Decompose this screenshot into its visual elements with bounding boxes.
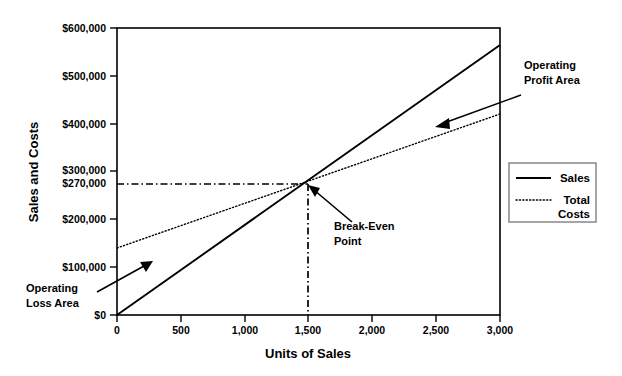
x-tick-label-500: 500 — [172, 324, 190, 336]
x-tick-label-0: 0 — [114, 324, 120, 336]
x-tick-label-1500: 1,500 — [295, 324, 321, 336]
x-tick-label-3000: 3,000 — [487, 324, 513, 336]
y-axis-tick-labels: $600,000 $500,000 $400,000 $300,000 $270… — [62, 22, 106, 321]
y-axis-title: Sales and Costs — [26, 122, 41, 222]
legend-label-total-costs-line2: Costs — [558, 208, 590, 220]
legend-label-sales: Sales — [560, 172, 590, 184]
x-tick-label-2000: 2,000 — [359, 324, 385, 336]
y-tick-label-100000: $100,000 — [62, 261, 106, 273]
chart-canvas: $600,000 $500,000 $400,000 $300,000 $270… — [0, 0, 622, 376]
x-axis-ticks — [117, 315, 500, 322]
breakeven-chart-figure: $600,000 $500,000 $400,000 $300,000 $270… — [0, 0, 622, 376]
legend-label-total-costs-line1: Total — [563, 194, 590, 206]
x-axis-title: Units of Sales — [265, 346, 351, 361]
x-tick-label-1000: 1,000 — [232, 324, 258, 336]
y-tick-label-270000: $270,000 — [62, 177, 106, 189]
break-even-label-line1: Break-Even — [334, 220, 395, 232]
y-tick-label-0: $0 — [94, 309, 106, 321]
x-axis-tick-labels: 0 500 1,000 1,500 2,000 2,500 3,000 — [114, 324, 513, 336]
y-tick-label-300000: $300,000 — [62, 164, 106, 176]
y-tick-label-500000: $500,000 — [62, 70, 106, 82]
y-tick-label-400000: $400,000 — [62, 118, 106, 130]
break-even-label-line2: Point — [334, 235, 362, 247]
y-tick-label-600000: $600,000 — [62, 22, 106, 34]
chart-legend[interactable]: Sales Total Costs — [509, 163, 596, 222]
y-axis-ticks — [110, 28, 117, 315]
operating-profit-label-line1: Operating — [524, 59, 576, 71]
operating-loss-label-line1: Operating — [26, 282, 78, 294]
operating-loss-label-line2: Loss Area — [26, 297, 80, 309]
operating-profit-label-line2: Profit Area — [524, 74, 581, 86]
x-tick-label-2500: 2,500 — [423, 324, 449, 336]
y-tick-label-200000: $200,000 — [62, 213, 106, 225]
